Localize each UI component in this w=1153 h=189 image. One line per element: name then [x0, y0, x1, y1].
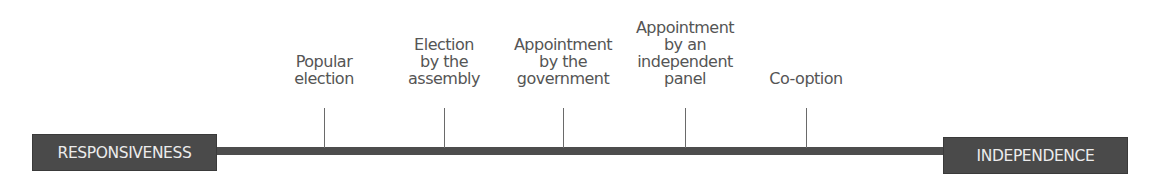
responsiveness-end-box: RESPONSIVENESS: [32, 134, 217, 171]
tick-appointment-by-panel: [685, 108, 686, 148]
tick-popular-election: [324, 108, 325, 148]
tick-election-by-assembly: [444, 108, 445, 148]
label-line: independent: [605, 53, 765, 70]
tick-appointment-by-government: [563, 108, 564, 148]
spectrum-axis-line: [215, 147, 945, 155]
label-line: by an: [605, 36, 765, 53]
independence-end-box: INDEPENDENCE: [943, 137, 1128, 174]
tick-co-option: [806, 108, 807, 148]
label-co-option: Co-option: [726, 70, 886, 87]
label-line: Appointment: [605, 19, 765, 36]
label-line: Co-option: [726, 70, 886, 87]
